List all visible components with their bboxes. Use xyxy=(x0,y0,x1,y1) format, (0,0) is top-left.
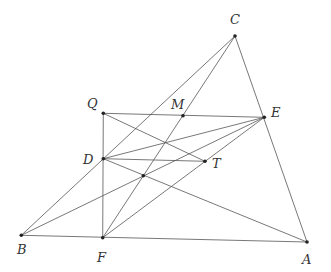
point-Q xyxy=(102,112,106,116)
label-T: T xyxy=(212,156,222,171)
label-M: M xyxy=(170,97,185,112)
label-B: B xyxy=(16,242,27,257)
point-E xyxy=(263,116,267,120)
segment-BC xyxy=(21,36,235,235)
points-group xyxy=(20,34,309,244)
segment-FC xyxy=(103,36,235,238)
point-M xyxy=(181,114,185,118)
point-F xyxy=(101,236,105,240)
point-B xyxy=(20,234,24,238)
segment-QF xyxy=(103,113,104,237)
label-C: C xyxy=(230,12,240,27)
segment-FE xyxy=(103,117,265,237)
point-C xyxy=(233,34,237,38)
segment-DA xyxy=(103,159,307,242)
label-A: A xyxy=(301,252,311,267)
label-D: D xyxy=(82,152,94,167)
labels-group: ABCDEFMQT xyxy=(16,12,311,267)
label-F: F xyxy=(96,250,107,265)
point-D xyxy=(102,157,106,161)
label-Q: Q xyxy=(87,96,98,111)
segment-QT xyxy=(103,113,205,161)
segment-DE xyxy=(103,117,264,158)
segment-BA xyxy=(21,235,307,242)
segment-CA xyxy=(235,36,307,242)
segments-group xyxy=(21,36,307,242)
point-T xyxy=(203,160,207,164)
point-A xyxy=(305,240,309,244)
geometry-diagram: ABCDEFMQT xyxy=(0,0,331,272)
label-E: E xyxy=(270,105,281,120)
point-P xyxy=(142,174,146,178)
